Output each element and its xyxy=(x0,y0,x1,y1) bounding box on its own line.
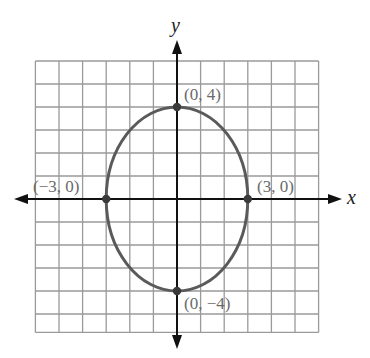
point-marker xyxy=(173,103,181,111)
point-marker xyxy=(244,195,252,203)
ellipse-graph: x y (0, 4) (−3, 0) (3, 0) (0, −4) xyxy=(0,0,370,358)
x-axis-arrow-left-icon xyxy=(14,194,28,204)
y-axis-label: y xyxy=(171,15,180,35)
point-label-bottom: (0, −4) xyxy=(184,295,230,312)
point-label-left: (−3, 0) xyxy=(33,178,79,195)
x-axis-label: x xyxy=(347,187,356,207)
y-axis-arrow-down-icon xyxy=(172,335,182,349)
point-label-top: (0, 4) xyxy=(184,86,221,103)
point-label-right: (3, 0) xyxy=(257,178,294,195)
y-axis-arrow-up-icon xyxy=(172,40,182,54)
point-marker xyxy=(173,287,181,295)
x-axis-arrow-right-icon xyxy=(328,194,342,204)
point-marker xyxy=(102,195,110,203)
